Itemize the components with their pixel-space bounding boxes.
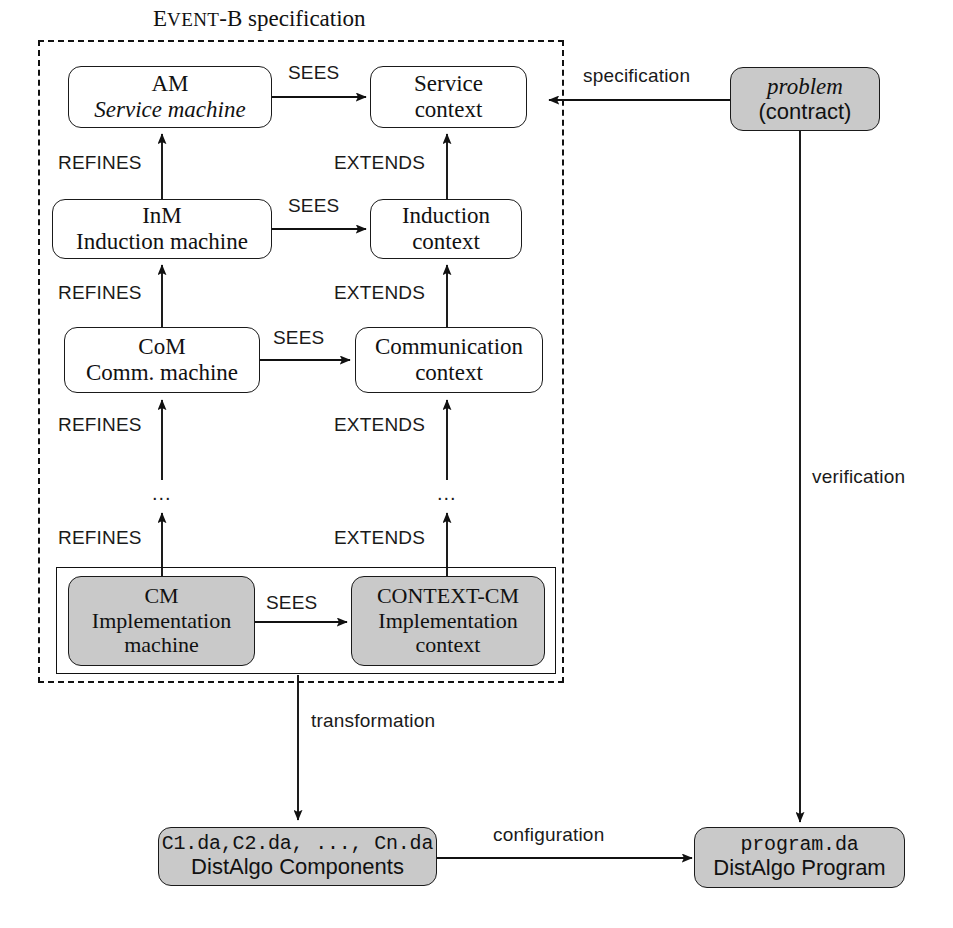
group-title-rest: -B specification xyxy=(219,6,365,31)
edge-label-extends-1: EXTENDS xyxy=(334,152,425,174)
node-cm-implementation-machine[interactable]: CM Implementation machine xyxy=(68,576,255,666)
node-am-line2: Service machine xyxy=(94,97,245,123)
node-context-cm-line2: Implementation xyxy=(378,609,517,634)
node-program-line2: DistAlgo Program xyxy=(713,856,885,881)
node-am-service-machine[interactable]: AM Service machine xyxy=(68,66,272,128)
node-problem-line1: problem xyxy=(767,74,843,100)
edge-label-extends-2: EXTENDS xyxy=(334,282,425,304)
edge-label-extends-3: EXTENDS xyxy=(334,414,425,436)
node-inm-induction-machine[interactable]: InM Induction machine xyxy=(52,199,272,259)
edge-label-sees-3: SEES xyxy=(273,327,325,349)
node-problem-contract[interactable]: problem (contract) xyxy=(730,67,880,131)
node-service-context[interactable]: Service context xyxy=(370,66,527,128)
edge-label-sees-1: SEES xyxy=(288,62,340,84)
figure-canvas: EVENT-B specification xyxy=(0,0,953,928)
group-title-smallcaps: VENT xyxy=(167,9,219,30)
edge-label-refines-2: REFINES xyxy=(58,282,142,304)
node-inm-line2: Induction machine xyxy=(76,229,248,255)
node-program-line1: program.da xyxy=(740,834,858,856)
node-cm-line1: CM xyxy=(144,584,178,609)
node-cm-line2: Implementation xyxy=(92,609,231,634)
edge-label-transformation: transformation xyxy=(311,710,435,732)
edge-label-configuration: configuration xyxy=(493,824,604,846)
node-context-cm-line1: CONTEXT-CM xyxy=(377,584,519,609)
node-inm-line1: InM xyxy=(142,203,182,229)
node-am-line1: AM xyxy=(151,71,188,97)
edge-label-refines-4: REFINES xyxy=(58,527,142,549)
node-problem-line2: (contract) xyxy=(759,100,852,125)
edge-label-sees-2: SEES xyxy=(288,195,340,217)
group-title-event-b-specification: EVENT-B specification xyxy=(153,6,366,32)
node-com-comm-machine[interactable]: CoM Comm. machine xyxy=(64,327,260,393)
node-cm-line3: machine xyxy=(124,633,199,658)
edge-label-specification: specification xyxy=(583,65,690,87)
edge-label-refines-3: REFINES xyxy=(58,414,142,436)
edge-label-refines-1: REFINES xyxy=(58,152,142,174)
node-service-context-line1: Service xyxy=(414,71,483,97)
node-communication-context-line1: Communication xyxy=(375,334,523,360)
node-context-cm-implementation-context[interactable]: CONTEXT-CM Implementation context xyxy=(351,576,545,666)
edge-label-sees-4: SEES xyxy=(266,592,318,614)
ellipsis-context-chain: ... xyxy=(437,482,457,505)
node-induction-context-line1: Induction xyxy=(402,203,490,229)
node-distalgo-components[interactable]: C1.da,C2.da, ..., Cn.da DistAlgo Compone… xyxy=(158,827,437,886)
node-service-context-line2: context xyxy=(415,97,483,123)
edge-label-extends-4: EXTENDS xyxy=(334,527,425,549)
node-components-line1: C1.da,C2.da, ..., Cn.da xyxy=(162,833,433,855)
group-title-initial: E xyxy=(153,6,167,31)
node-communication-context-line2: context xyxy=(415,360,483,386)
node-com-line1: CoM xyxy=(138,334,185,360)
node-com-line2: Comm. machine xyxy=(86,360,238,386)
node-induction-context-line2: context xyxy=(412,229,480,255)
node-context-cm-line3: context xyxy=(416,633,481,658)
node-distalgo-program[interactable]: program.da DistAlgo Program xyxy=(694,827,905,888)
edge-label-verification: verification xyxy=(812,466,905,488)
node-communication-context[interactable]: Communication context xyxy=(355,327,543,393)
node-induction-context[interactable]: Induction context xyxy=(370,199,522,259)
node-components-line2: DistAlgo Components xyxy=(191,855,404,880)
ellipsis-machine-chain: ... xyxy=(152,482,172,505)
